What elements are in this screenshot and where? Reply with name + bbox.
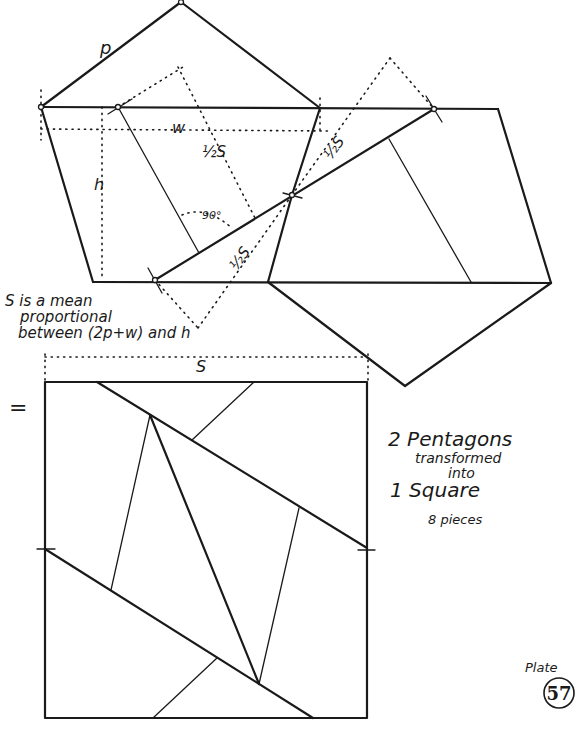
dissection-diagram: p w h ½S ½S ½S 90° S is a mean proportio… <box>0 0 584 735</box>
dotted-upper-right-arm <box>390 58 434 109</box>
equals-sign: = <box>9 395 27 420</box>
cut-point-bottom <box>153 278 158 283</box>
label-angle: 90° <box>202 209 222 222</box>
left-vertex-point <box>39 105 44 110</box>
label-half-s-bottom: ½S <box>225 243 254 273</box>
title-line-1: 2 Pentagons <box>388 427 512 451</box>
note-line-3: between (2p+w) and h <box>18 324 191 342</box>
cut-point-right <box>432 107 437 112</box>
square-cut-top <box>192 382 254 440</box>
plate-number: 57 <box>546 683 571 704</box>
bottom-line <box>93 282 551 283</box>
label-half-s-left: ½S <box>202 143 227 161</box>
label-s-dimension: S <box>196 357 206 376</box>
label-w: w <box>172 118 186 137</box>
square-cut-right <box>259 508 299 684</box>
perpendicular-cut <box>118 107 199 253</box>
title-line-4: 1 Square <box>390 478 480 502</box>
square-diagonal-lower <box>45 549 313 718</box>
square-cut-left <box>111 415 150 590</box>
pieces-count: 8 pieces <box>428 512 482 527</box>
square-cut-bottom <box>153 658 217 718</box>
left-edge <box>41 107 93 282</box>
label-p: p <box>99 37 111 58</box>
right-edge <box>498 109 551 283</box>
top-base-line <box>41 107 498 109</box>
lower-pentagon-edges <box>268 282 551 386</box>
pentagon-top-edges <box>41 2 320 108</box>
square-diagonal-upper <box>97 382 367 548</box>
dotted-w-line <box>41 129 330 131</box>
label-h: h <box>94 175 104 194</box>
dotted-lower-left-arm <box>155 280 198 328</box>
label-half-s-right: ½S <box>320 132 349 162</box>
apex-point <box>179 0 184 5</box>
plate-label: Plate <box>525 660 558 675</box>
right-cut <box>389 139 471 282</box>
title-line-2: transformed <box>415 450 501 466</box>
center-point <box>290 193 295 198</box>
dotted-half-s-right <box>292 58 390 195</box>
cut-point-top <box>116 105 121 110</box>
square-figure <box>37 354 375 718</box>
square-cut-center <box>150 415 259 684</box>
